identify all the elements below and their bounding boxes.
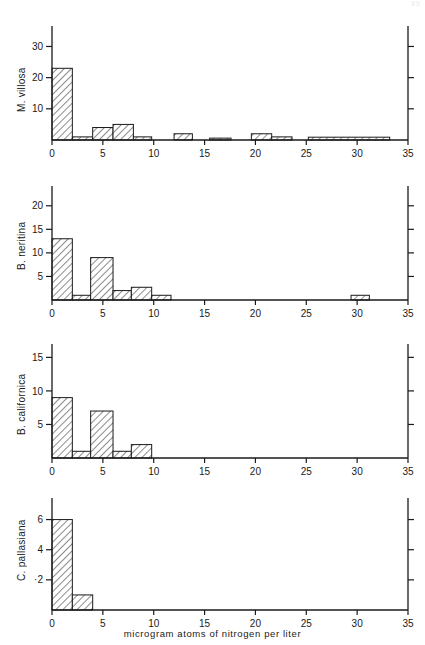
x-tick-label: 20 [250, 308, 262, 319]
x-tick-label: 15 [199, 308, 211, 319]
bar [131, 445, 151, 458]
x-tick-label: 35 [402, 466, 414, 477]
species-label-3: C. pallasiana [16, 500, 27, 600]
bar [113, 124, 133, 140]
bar [174, 134, 192, 140]
y-tick-label: 10 [32, 386, 44, 397]
x-tick-label: 15 [199, 618, 211, 628]
y-tick-label: ·2 [34, 574, 43, 585]
bar [152, 295, 171, 300]
bar [251, 134, 271, 140]
x-tick-label: 10 [148, 148, 160, 159]
plot-area-0: 05101520253035102030 [0, 12, 425, 164]
x-tick-label: 25 [301, 148, 313, 159]
y-tick-label: 6 [37, 514, 43, 525]
bar [91, 411, 113, 458]
bar [113, 291, 131, 300]
y-tick-label: 10 [32, 103, 44, 114]
x-tick-label: 30 [352, 466, 364, 477]
x-axis-title: microgram atoms of nitrogen per liter [0, 628, 425, 639]
x-tick-label: 20 [250, 618, 262, 628]
bar [72, 295, 90, 300]
y-tick-label: 20 [32, 200, 44, 211]
x-tick-label: 15 [199, 466, 211, 477]
x-tick-label: 35 [402, 308, 414, 319]
plot-area-3: 05101520253035·246 [0, 488, 425, 628]
bar [91, 258, 113, 300]
page-header-artifact: 89 [0, 0, 425, 12]
species-label-0: M. villosa [16, 42, 27, 138]
panel-b-californica: B. californica 0510152025303551015 [0, 330, 425, 482]
x-tick-label: 10 [148, 308, 160, 319]
bar [351, 295, 369, 300]
x-tick-label: 20 [250, 148, 262, 159]
y-tick-label: 5 [37, 271, 43, 282]
bar [72, 451, 90, 458]
bar [52, 239, 72, 300]
bar [52, 68, 72, 140]
bar [52, 398, 72, 458]
bar [72, 595, 92, 610]
species-label-1: B. neritina [16, 196, 27, 296]
x-tick-label: 30 [352, 618, 364, 628]
panel-b-neritina: B. neritina 051015202530355101520 [0, 172, 425, 324]
y-tick-label: 30 [32, 41, 44, 52]
y-tick-label: 15 [32, 352, 44, 363]
bar [93, 128, 113, 140]
y-tick-label: 15 [32, 224, 44, 235]
x-tick-label: 5 [100, 466, 106, 477]
x-tick-label: 5 [100, 618, 106, 628]
x-tick-label: 35 [402, 148, 414, 159]
x-tick-label: 0 [49, 466, 55, 477]
x-tick-label: 20 [250, 466, 262, 477]
y-tick-label: 5 [37, 419, 43, 430]
panel-c-pallasiana: C. pallasiana 05101520253035·246 [0, 488, 425, 628]
plot-area-1: 051015202530355101520 [0, 172, 425, 324]
x-tick-label: 30 [352, 308, 364, 319]
x-tick-label: 0 [49, 308, 55, 319]
bar [52, 520, 72, 610]
bar [131, 287, 151, 300]
x-tick-label: 25 [301, 466, 313, 477]
page-number: 89 [411, 0, 421, 7]
bar [113, 451, 131, 458]
x-tick-label: 25 [301, 618, 313, 628]
species-label-2: B. californica [16, 348, 27, 460]
x-tick-label: 5 [100, 148, 106, 159]
histogram-figure: 89 M. villosa 05101520253035102030 B. ne… [0, 0, 425, 645]
x-tick-label: 30 [352, 148, 364, 159]
x-tick-label: 5 [100, 308, 106, 319]
x-tick-label: 15 [199, 148, 211, 159]
y-tick-label: 10 [32, 247, 44, 258]
x-tick-label: 10 [148, 618, 160, 628]
x-tick-label: 10 [148, 466, 160, 477]
x-tick-label: 0 [49, 618, 55, 628]
x-tick-label: 0 [49, 148, 55, 159]
y-tick-label: 20 [32, 72, 44, 83]
plot-area-2: 0510152025303551015 [0, 330, 425, 482]
y-tick-label: 4 [37, 544, 43, 555]
x-tick-label: 25 [301, 308, 313, 319]
x-tick-label: 35 [402, 618, 414, 628]
panel-m-villosa: M. villosa 05101520253035102030 [0, 12, 425, 164]
